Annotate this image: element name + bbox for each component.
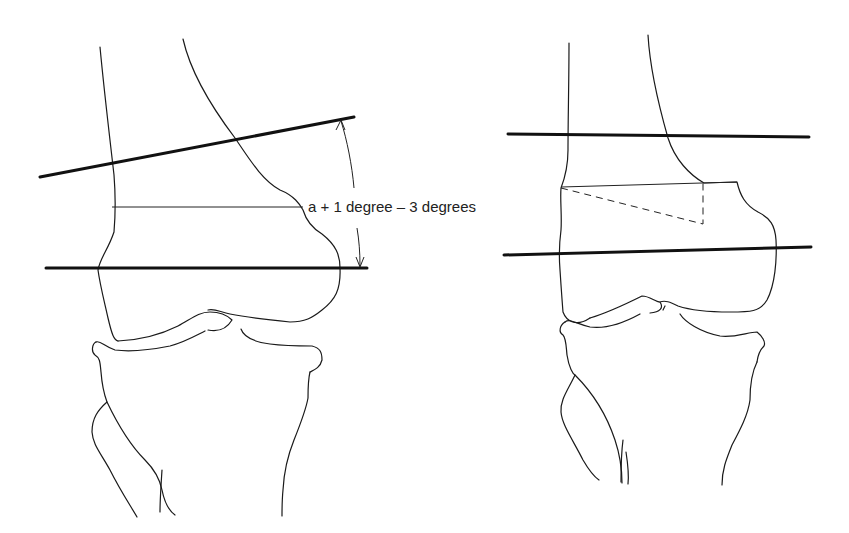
left-tibia-left-outline [92,342,175,515]
left-femoral-axis-line [40,117,354,177]
right-femur-medial-outline [559,43,590,323]
right-joint-line [504,247,811,255]
removed-wedge-outline [561,183,703,224]
right-tibia-plateau-right [680,314,765,362]
left-tibia-plateau-right [241,329,322,372]
right-femoral-axis-line [508,134,809,137]
right-femur-notch [590,296,665,318]
left-femur-lateral-outline [183,39,340,322]
right-tibia-right-outline [722,362,757,485]
left-femur-notch [118,312,232,341]
knee-osteotomy-diagram [0,0,849,533]
angle-arc-upper [341,121,354,188]
angle-annotation: a + 1 degree – 3 degrees [306,198,478,215]
osteotomy-cut-line [561,182,737,187]
right-knee-drawing [504,35,811,485]
left-knee-drawing [40,39,367,517]
right-tibia-left-outline [560,322,622,483]
right-fibula-outline [561,375,599,480]
right-femur-lateral-outline [648,35,776,312]
left-tibia-right-outline [282,372,310,516]
left-femur-medial-outline [98,47,118,341]
right-tibia-plateau-left [565,314,640,327]
left-fibula-outline [92,402,137,517]
